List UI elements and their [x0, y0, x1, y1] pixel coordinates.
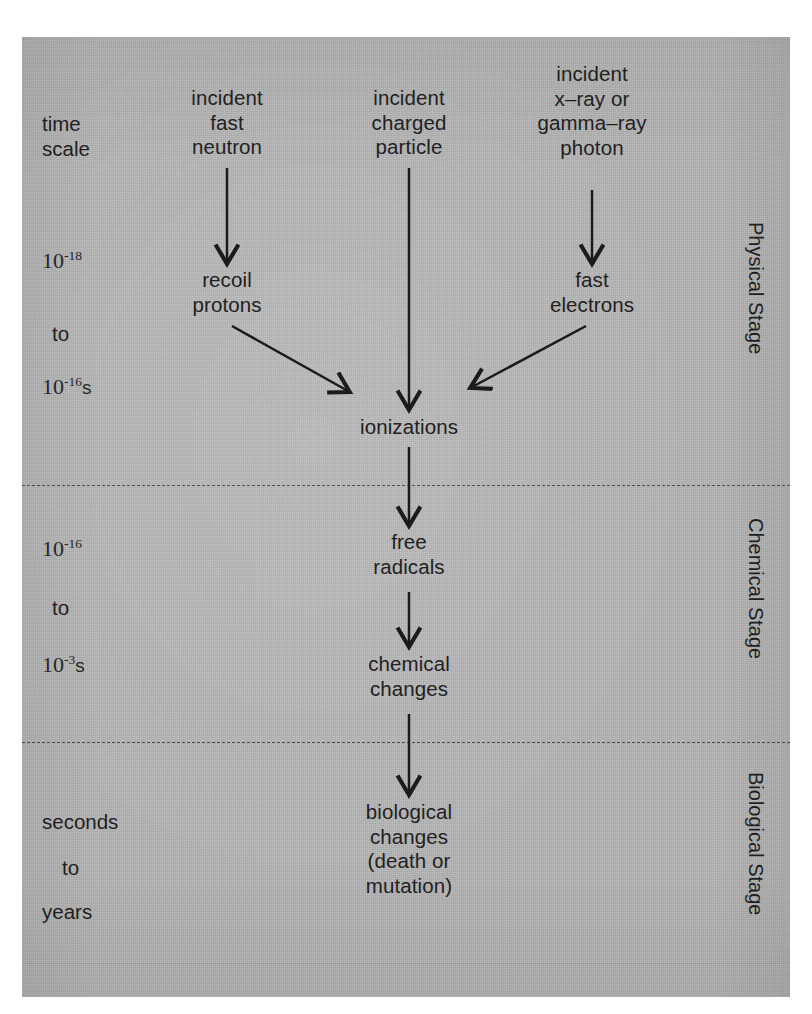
- time-physical-from-mantissa: 10: [42, 248, 64, 273]
- time-physical-to-exponent: -16: [64, 374, 82, 389]
- node-free-radicals: free radicals: [373, 530, 444, 579]
- stage-label-biological: Biological Stage: [746, 772, 766, 915]
- node-incident-photon: incident x–ray or gamma–ray photon: [537, 62, 646, 160]
- time-physical-to-mantissa: 10: [42, 374, 64, 399]
- node-chemical-changes: chemical changes: [368, 652, 450, 701]
- time-physical-to: 10-16s: [42, 376, 92, 399]
- time-biological-to: years: [42, 900, 92, 925]
- time-physical-connector: to: [52, 322, 69, 347]
- time-physical-to-unit: s: [82, 377, 92, 398]
- node-fast-electrons: fast electrons: [550, 268, 634, 317]
- time-physical-from-exponent: -18: [64, 248, 82, 263]
- figure-canvas: time scale 10-18 to 10-16s 10-16 to 10-3…: [0, 0, 812, 1014]
- time-physical-from: 10-18: [42, 250, 82, 273]
- time-chemical-to-exponent: -3: [64, 652, 75, 667]
- node-ionizations: ionizations: [360, 415, 458, 440]
- time-biological-connector: to: [62, 856, 79, 881]
- time-chemical-from-mantissa: 10: [42, 536, 64, 561]
- time-chemical-from: 10-16: [42, 538, 82, 561]
- time-chemical-to: 10-3s: [42, 654, 85, 677]
- stage-label-chemical: Chemical Stage: [746, 518, 766, 659]
- node-biological-changes: biological changes (death or mutation): [366, 800, 452, 898]
- time-chemical-from-exponent: -16: [64, 536, 82, 551]
- time-chemical-to-mantissa: 10: [42, 652, 64, 677]
- node-incident-charged-particle: incident charged particle: [372, 86, 447, 160]
- time-scale-axis-label: time scale: [42, 112, 90, 161]
- node-incident-fast-neutron: incident fast neutron: [191, 86, 262, 160]
- divider-bottom-faint: [22, 963, 790, 964]
- divider-chemical-biological: [22, 742, 790, 743]
- time-chemical-connector: to: [52, 596, 69, 621]
- divider-physical-chemical: [22, 485, 790, 486]
- node-recoil-protons: recoil protons: [192, 268, 261, 317]
- time-chemical-to-unit: s: [75, 655, 85, 676]
- time-biological-from: seconds: [42, 810, 118, 835]
- stage-label-physical: Physical Stage: [746, 222, 766, 354]
